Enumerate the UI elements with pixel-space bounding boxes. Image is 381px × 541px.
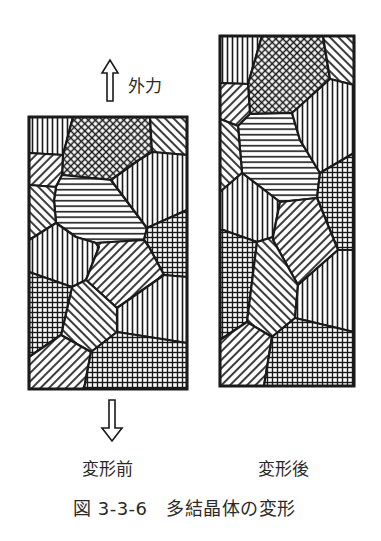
arrow-down-icon xyxy=(102,400,122,441)
figure-caption: 図 3-3-6 多結晶体の変形 xyxy=(73,494,296,520)
arrow-up-icon xyxy=(102,60,118,101)
label-after: 変形後 xyxy=(258,455,309,480)
polycrystal-deformation-diagram xyxy=(0,0,381,541)
label-before: 変形前 xyxy=(82,455,133,480)
grain-diagB xyxy=(150,117,187,155)
force-label: 外力 xyxy=(128,72,162,97)
panel-after-deformation xyxy=(220,36,354,386)
panel-before-deformation xyxy=(29,117,187,389)
